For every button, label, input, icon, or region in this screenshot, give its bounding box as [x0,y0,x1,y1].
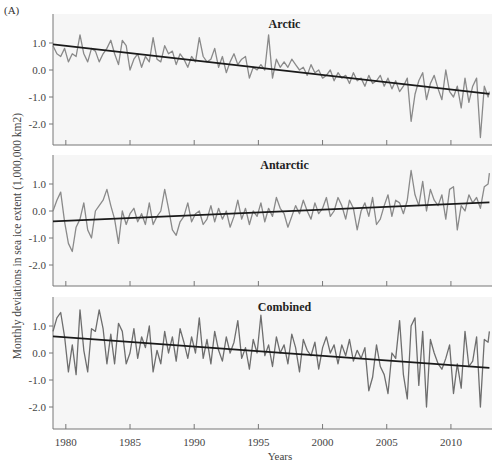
y-tick-label: 1.0 [32,37,46,49]
y-tick-label: -1.0 [29,374,47,386]
y-tick-label: -1.0 [29,232,47,244]
panel-arctic: 1.00.0-1.0-2.0Arctic [29,14,492,145]
y-tick-label: -2.0 [29,401,47,413]
y-tick-label: -2.0 [29,259,47,271]
x-tick-label: 1980 [55,436,78,448]
x-tick-label: 1995 [247,436,270,448]
y-tick-label: 0.0 [32,347,46,359]
y-tick-label: 1.0 [32,320,46,332]
x-tick-label: 2005 [376,436,399,448]
x-tick-label: 2010 [440,436,463,448]
panel-title: Combined [258,300,312,314]
y-tick-label: 0.0 [32,205,46,217]
panel-title: Antarctic [260,158,309,172]
x-axis-label: Years [250,450,310,462]
panel-antarctic: 1.00.0-1.0-2.0Antarctic [29,155,492,286]
figure-label: (A) [4,4,19,16]
y-tick-label: -2.0 [29,118,47,130]
x-tick-label: 1990 [183,436,206,448]
y-tick-label: 1.0 [32,178,46,190]
panel-combined: 1.00.0-1.0-2.019801985199019952000200520… [29,297,492,448]
panel-title: Arctic [269,17,301,31]
chart-canvas: 1.00.0-1.0-2.0Arctic1.00.0-1.0-2.0Antarc… [0,0,503,476]
y-tick-label: -1.0 [29,91,47,103]
y-axis-label: Monthly deviations in sea ice extent (1,… [11,111,23,361]
plot-area [53,155,492,286]
figure: (A) Monthly deviations in sea ice extent… [0,0,503,476]
x-tick-label: 1985 [119,436,142,448]
plot-area [53,14,492,145]
x-tick-label: 2000 [312,436,335,448]
y-tick-label: 0.0 [32,64,46,76]
